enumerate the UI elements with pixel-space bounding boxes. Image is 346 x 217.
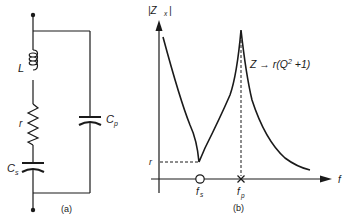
fs-label-subscript: s <box>200 191 204 198</box>
peak-annotation: Z → r(Q2 +1) <box>249 58 310 70</box>
circuit-diagram <box>22 13 101 212</box>
resistor-zigzag <box>28 104 38 145</box>
x-axis-arrowhead <box>320 176 332 183</box>
y-axis-label-close: | <box>169 5 172 16</box>
parallel-cap-label: C <box>106 113 114 125</box>
impedance-graph <box>151 20 332 193</box>
y-axis-label-subscript: x <box>163 10 168 17</box>
resistor-label: r <box>19 118 23 129</box>
crystal-equivalent-circuit-figure: L r C s C p (a) |Z x | f r f s f p (b) Z… <box>0 0 346 217</box>
parallel-cap-subscript: p <box>113 120 118 128</box>
fp-label-subscript: p <box>240 192 245 200</box>
y-axis-label: |Z <box>148 5 158 16</box>
y-axis-arrowhead <box>156 20 163 31</box>
r-level-label: r <box>149 157 153 167</box>
panel-a-caption: (a) <box>61 204 72 214</box>
panel-b-caption: (b) <box>233 203 244 213</box>
fs-marker-circle <box>196 175 204 183</box>
series-cap-label: C <box>7 162 15 174</box>
inductor-label: L <box>18 62 24 74</box>
peak-annotation-tail: +1) <box>292 58 310 70</box>
series-cap-subscript: s <box>15 169 19 176</box>
inductor-coil <box>29 50 37 70</box>
impedance-curve <box>163 30 310 170</box>
peak-annotation-main: Z → r(Q <box>249 58 288 70</box>
x-axis-label: f <box>338 174 342 185</box>
bottom-terminal-dot <box>31 208 35 212</box>
